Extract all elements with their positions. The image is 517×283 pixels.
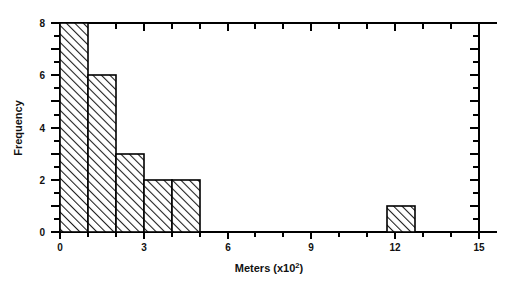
histogram-figure: 0 2 4 6 8 0 3 6 9 12 15 Frequency Meters…	[0, 0, 517, 283]
x-tick-label: 9	[308, 242, 314, 253]
right-axis-ticks	[470, 36, 479, 232]
y-tick-label: 2	[39, 175, 45, 186]
x-tick-label: 0	[57, 242, 63, 253]
y-tick-labels: 0 2 4 6 8	[39, 18, 45, 238]
x-axis-title-base: Meters (x10	[235, 262, 296, 274]
y-tick-label: 0	[39, 227, 45, 238]
x-axis-title: Meters (x102)	[235, 261, 304, 274]
y-tick-label: 8	[39, 18, 45, 29]
histogram-bar	[88, 75, 116, 232]
histogram-svg: 0 2 4 6 8 0 3 6 9 12 15 Frequency Meters…	[0, 0, 517, 283]
y-axis-title: Frequency	[12, 99, 24, 156]
x-axis-ticks	[60, 232, 479, 239]
histogram-bar	[116, 154, 144, 232]
histogram-bar	[60, 23, 88, 232]
x-axis-title-tail: )	[300, 262, 304, 274]
histogram-bars	[60, 23, 415, 232]
y-axis-ticks	[51, 23, 60, 232]
y-tick-label: 6	[39, 70, 45, 81]
x-tick-label: 3	[141, 242, 147, 253]
x-tick-label: 12	[389, 242, 401, 253]
x-tick-label: 6	[225, 242, 231, 253]
histogram-bar	[387, 206, 415, 232]
histogram-bar	[144, 180, 172, 232]
x-tick-labels: 0 3 6 9 12 15	[57, 242, 485, 253]
y-tick-label: 4	[39, 123, 45, 134]
x-tick-label: 15	[473, 242, 485, 253]
x-axis-top-ticks	[116, 23, 479, 31]
histogram-bar	[172, 180, 200, 232]
